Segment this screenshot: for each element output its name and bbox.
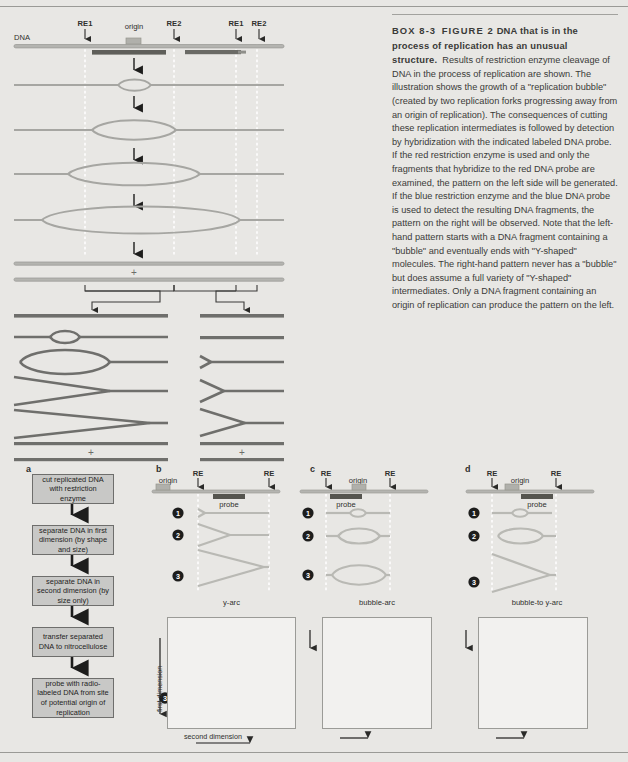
panel-c-schematic: origin RE RE probe — [300, 469, 428, 592]
replication-schematic: DNA RE1 RE2 RE1 RE2 origin — [0, 14, 380, 466]
origin-marker — [126, 38, 141, 44]
flow-step-4: transfer separated DNA to nitrocellulose — [32, 627, 114, 657]
arc-label-d: bubble-to y-arc — [478, 598, 596, 607]
right-fragment-series: + — [200, 314, 284, 461]
panel-c-re-label-2: RE — [385, 469, 396, 478]
bubble-stage-4 — [14, 207, 284, 234]
site-label-re2-right: RE2 — [252, 19, 267, 28]
left-fragment-series: + — [14, 314, 168, 461]
panel-c-letter: c — [310, 464, 315, 474]
dna-label: DNA — [14, 33, 31, 42]
panel-c-probe-label: probe — [336, 500, 355, 509]
panel-b-probe-label: probe — [219, 500, 238, 509]
panel-b-stage-3: 3 — [176, 572, 180, 581]
panel-b-schematic: origin RE RE probe — [152, 469, 280, 592]
arc-label-b: y-arc — [167, 598, 296, 607]
panel-c-stage-1: 1 — [306, 509, 310, 518]
panel-b-re-label-2: RE — [264, 469, 275, 478]
panel-c-re-label-1: RE — [321, 469, 332, 478]
panel-d-origin-label: origin — [511, 476, 530, 485]
panel-d-re-label-1: RE — [487, 469, 498, 478]
panel-c-probe-bar — [330, 494, 362, 499]
panel-d-re-label-2: RE — [551, 469, 562, 478]
panel-c-origin-label: origin — [349, 476, 368, 485]
flow-step-2: separate DNA in first dimension (by shap… — [32, 525, 114, 555]
probe-bar-left — [92, 50, 166, 55]
figure-page: BOX 8-3 FIGURE 2 DNA that is in the proc… — [0, 0, 628, 762]
gel-frame-b — [167, 617, 296, 729]
flow-step-5: probe with radio-labeled DNA from site o… — [32, 678, 114, 718]
plus-mark-left: + — [88, 447, 94, 458]
panel-b-origin-label: origin — [159, 476, 178, 485]
second-dimension-label: second dimension — [184, 732, 242, 741]
panel-c-stage-3: 3 — [306, 571, 310, 580]
panel-c-stage-badges: 1 2 3 — [302, 507, 313, 580]
panel-c-origin-marker — [352, 484, 366, 490]
bubble-stage-1 — [14, 79, 284, 90]
panel-a-letter: a — [26, 464, 32, 474]
panel-c-stage-2: 2 — [306, 532, 310, 541]
panel-b-stage-2: 2 — [176, 531, 180, 540]
plus-mark-replicated: + — [131, 267, 137, 278]
panel-d-probe-label: probe — [527, 500, 546, 509]
panel-b-letter: b — [156, 464, 162, 474]
bubble-stage-2 — [14, 120, 284, 140]
parent-dna-strand — [14, 38, 284, 55]
panel-d-probe-bar — [521, 494, 553, 499]
flow-step-3: separate DNA in second dimension (by siz… — [32, 576, 114, 606]
caption-body: Results of restriction enzyme cleavage o… — [392, 55, 618, 310]
fragment-routing-brackets — [85, 285, 257, 310]
panel-d-stage-2: 2 — [472, 532, 476, 541]
method-panels: a b c d origin RE RE — [0, 462, 628, 754]
caption-rule — [392, 14, 618, 15]
probe-bar-right — [185, 50, 241, 54]
panel-d-stage-3: 3 — [472, 578, 476, 587]
panel-d-stage-badges: 1 2 3 — [468, 507, 479, 587]
panel-d-stage-1: 1 — [472, 509, 476, 518]
panel-b-stage-badges: 1 2 3 — [172, 507, 183, 581]
panel-b-stage-1: 1 — [176, 509, 180, 518]
arc-label-c: bubble-arc — [322, 598, 432, 607]
site-label-re1-left: RE1 — [78, 19, 94, 28]
first-dimension-label: first dimension — [155, 666, 164, 712]
site-label-re1-right: RE1 — [229, 19, 245, 28]
panel-d-schematic: origin RE RE probe — [466, 469, 594, 592]
panel-d-origin-marker — [505, 484, 519, 490]
caption-figure-number: FIGURE 2 — [442, 25, 494, 36]
panel-b-re-label-1: RE — [193, 469, 204, 478]
gel-frame-d — [478, 617, 588, 729]
plus-mark-right: + — [239, 447, 245, 458]
origin-label: origin — [125, 22, 144, 31]
panel-b-origin-marker — [156, 484, 170, 490]
figure-caption: BOX 8-3 FIGURE 2 DNA that is in the proc… — [392, 14, 618, 312]
top-divider-rule — [0, 6, 628, 7]
site-label-re2-left: RE2 — [167, 19, 182, 28]
panel-b-probe-bar — [213, 494, 245, 499]
gel-frame-c — [322, 617, 432, 729]
replicated-duplex-pair: + — [14, 262, 284, 281]
bubble-stage-3 — [14, 163, 284, 186]
caption-box-number: BOX 8-3 — [392, 25, 436, 36]
flow-step-1: cut replicated DNA with restriction enzy… — [32, 474, 114, 504]
site-tick-arrows — [85, 29, 259, 39]
panel-d-letter: d — [465, 464, 471, 474]
